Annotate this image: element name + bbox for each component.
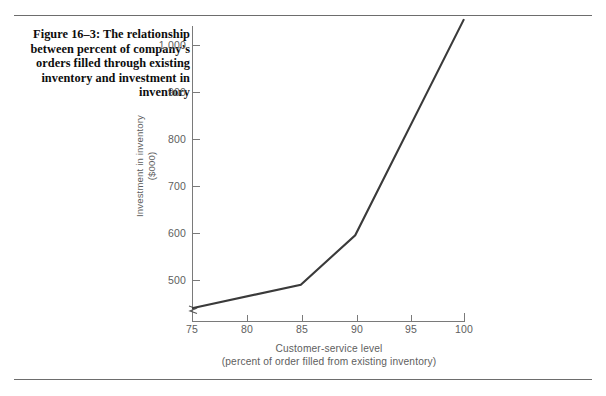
x-axis-title-sub: (percent of order filled from existing i… [176, 356, 482, 369]
x-axis-title: Customer-service level (percent of order… [176, 343, 482, 368]
x-axis-title-main: Customer-service level [176, 343, 482, 356]
series-plot [0, 0, 606, 396]
line-chart: 1,000 900 800 700 600 500 75 80 85 90 95… [0, 0, 606, 396]
y-axis-title-units: ($000) [146, 96, 158, 236]
figure-page: Figure 16–3: The relationship between pe… [0, 0, 606, 396]
y-axis-title: Investment in inventory ($000) [134, 96, 158, 236]
series-line-investment [192, 19, 464, 308]
y-axis-title-main: Investment in inventory [134, 96, 146, 236]
